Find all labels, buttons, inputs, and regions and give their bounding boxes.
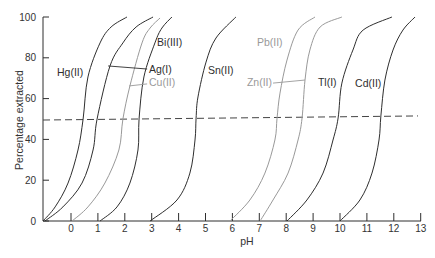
label-cd-ii: Cd(II): [355, 77, 381, 89]
x-tick-label: 8: [283, 223, 289, 234]
y-tick-label: 80: [25, 52, 37, 63]
y-tick-label: 0: [30, 216, 36, 227]
fifty-percent-reference-line: [43, 116, 418, 120]
dashed-reference-line: [43, 116, 418, 120]
leader-line-ag-i: [108, 66, 147, 69]
x-axis-ticks: 012345678910111213: [68, 213, 426, 234]
plot-area: 020406080100 012345678910111213 Hg(II)Ag…: [19, 12, 426, 234]
label-tl-i: Tl(I): [318, 76, 337, 88]
label-hg-ii: Hg(II): [57, 66, 83, 78]
x-tick-label: 10: [334, 223, 346, 234]
x-tick-label: 13: [415, 223, 427, 234]
y-axis-title: Percentage extracted: [13, 70, 25, 170]
x-axis-title: pH: [240, 235, 253, 247]
y-tick-label: 60: [25, 93, 37, 104]
x-tick-label: 9: [310, 223, 316, 234]
x-tick-label: 4: [176, 223, 182, 234]
label-sn-ii: Sn(II): [208, 64, 234, 76]
x-tick-label: 5: [203, 223, 209, 234]
label-pb-ii: Pb(II): [257, 36, 283, 48]
x-tick-label: 6: [230, 223, 236, 234]
label-bi-iii: Bi(III): [157, 36, 182, 48]
x-tick-label: 11: [362, 223, 373, 234]
label-leader-lines: [108, 66, 305, 86]
leader-line-zn-ii: [273, 80, 305, 83]
leader-line-cu-ii: [129, 84, 147, 86]
x-tick-label: 3: [149, 223, 155, 234]
label-cu-ii: Cu(II): [149, 76, 175, 88]
y-tick-label: 100: [19, 12, 36, 23]
label-zn-ii: Zn(II): [247, 76, 272, 88]
extraction-vs-ph-chart: 020406080100 012345678910111213 Hg(II)Ag…: [0, 0, 435, 258]
x-tick-label: 0: [68, 223, 74, 234]
label-ag-i: Ag(I): [149, 63, 172, 75]
curve-cd-ii: [340, 17, 415, 221]
x-tick-label: 12: [388, 223, 400, 234]
curve-cu-ii: [72, 18, 160, 221]
curve-tl-i: [287, 17, 392, 221]
y-tick-label: 20: [25, 175, 37, 186]
x-tick-label: 7: [257, 223, 263, 234]
y-tick-label: 40: [25, 134, 37, 145]
x-tick-label: 1: [95, 223, 101, 234]
x-tick-label: 2: [122, 223, 128, 234]
